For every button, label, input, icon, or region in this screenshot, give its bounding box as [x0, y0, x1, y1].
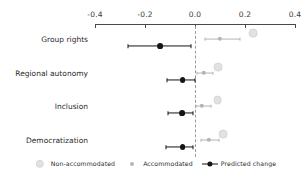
- x-axis-tick-label: 0.0: [189, 10, 202, 19]
- x-axis-tick-label: 0.2: [239, 10, 252, 19]
- legend-item-non-accommodated[interactable]: Non-accommodated: [32, 160, 115, 167]
- data-point-predicted-change: [179, 110, 185, 116]
- x-axis-tick-label: 0.4: [289, 10, 302, 19]
- legend-item-predicted-change[interactable]: Predicted change: [202, 160, 276, 167]
- x-axis: -0.4-0.20.00.20.4: [0, 0, 308, 30]
- legend-marker-icon: [202, 160, 218, 167]
- data-point-accommodated: [218, 37, 222, 41]
- category-label-regional-autonomy: Regional autonomy: [15, 69, 88, 78]
- error-bar-cap: [192, 111, 193, 115]
- category-label-group-rights: Group rights: [41, 35, 88, 44]
- data-point-non-accommodated: [249, 29, 258, 38]
- error-bar-cap: [128, 44, 129, 48]
- data-point-accommodated: [207, 138, 211, 142]
- data-point-non-accommodated: [219, 130, 228, 139]
- data-point-predicted-change: [180, 77, 186, 83]
- data-point-predicted-change: [157, 43, 163, 49]
- legend-label: Accommodated: [143, 160, 193, 167]
- error-bar-cap: [219, 139, 220, 142]
- data-point-accommodated: [200, 104, 204, 108]
- zero-reference-line: [195, 26, 196, 157]
- error-bar-cap: [240, 38, 241, 41]
- error-bar-cap: [205, 38, 206, 41]
- legend-marker-icon: [32, 160, 48, 167]
- x-axis-tick-label: -0.4: [87, 10, 102, 19]
- error-bar-cap: [196, 105, 197, 108]
- error-bar-cap: [165, 145, 166, 149]
- forest-plot: -0.4-0.20.00.20.4 Group rightsRegional a…: [0, 0, 308, 178]
- error-bar-cap: [196, 72, 197, 75]
- data-point-predicted-change: [180, 144, 186, 150]
- error-bar-cap: [210, 105, 211, 108]
- x-axis-tick: [295, 24, 296, 28]
- error-bar-cap: [193, 145, 194, 149]
- x-axis-tick-label: -0.2: [137, 10, 152, 19]
- legend-label: Predicted change: [221, 160, 276, 167]
- x-axis-tick: [245, 24, 246, 28]
- category-label-democratization: Democratization: [26, 136, 88, 145]
- category-label-inclusion: Inclusion: [55, 102, 88, 111]
- x-axis-tick: [95, 24, 96, 28]
- data-point-accommodated: [201, 71, 205, 75]
- legend-marker-icon: [124, 160, 140, 167]
- chart-legend: Non-accommodatedAccommodatedPredicted ch…: [0, 160, 308, 167]
- data-point-non-accommodated: [214, 63, 223, 72]
- x-axis-tick: [145, 24, 146, 28]
- error-bar-cap: [168, 111, 169, 115]
- legend-label: Non-accommodated: [51, 160, 115, 167]
- error-bar: [205, 39, 240, 40]
- data-point-non-accommodated: [213, 96, 222, 105]
- error-bar-cap: [194, 78, 195, 82]
- error-bar-cap: [212, 72, 213, 75]
- legend-item-accommodated[interactable]: Accommodated: [124, 160, 193, 167]
- error-bar-cap: [167, 78, 168, 82]
- error-bar-cap: [201, 139, 202, 142]
- error-bar-cap: [190, 44, 191, 48]
